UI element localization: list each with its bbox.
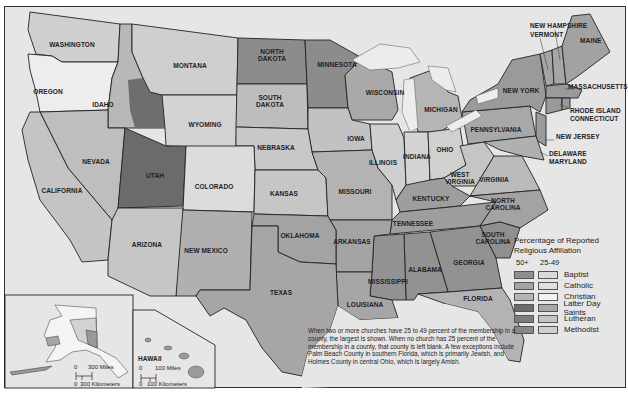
legend-title: Percentage of Reported Religious Affilia… bbox=[514, 236, 624, 255]
state-label-indiana: INDIANA bbox=[387, 153, 447, 160]
state-label-ohio: OHIO bbox=[415, 146, 475, 153]
state-label-maryland: MARYLAND bbox=[549, 158, 587, 165]
hawaii-island-big bbox=[188, 366, 204, 378]
state-label-arkansas: ARKANSAS bbox=[322, 238, 382, 245]
state-label-new-mexico: NEW MEXICO bbox=[184, 247, 228, 254]
state-label-georgia: GEORGIA bbox=[439, 259, 499, 266]
state-connecticut bbox=[546, 98, 562, 114]
state-washington bbox=[28, 12, 120, 62]
state-label-connecticut: CONNECTICUT bbox=[570, 115, 618, 122]
state-colorado bbox=[183, 146, 255, 212]
state-label-new-hampshire: NEW HAMPSHIRE bbox=[530, 22, 587, 29]
hawaii-scale-km: 100 Kilometers bbox=[147, 381, 187, 387]
hawaii-scale-miles: 100 Miles bbox=[155, 365, 181, 371]
legend-col-25: 25-49 bbox=[540, 258, 559, 267]
alaska-scale-zero-km: 0 bbox=[74, 381, 77, 387]
state-label-pennsylvania: PENNSYLVANIA bbox=[466, 126, 526, 133]
state-label-illinois: ILLINOIS bbox=[353, 159, 413, 166]
state-label-wyoming: WYOMING bbox=[175, 121, 235, 128]
legend-label: Methodist bbox=[564, 325, 599, 334]
state-label-florida: FLORIDA bbox=[448, 295, 508, 302]
state-rhode-island bbox=[562, 98, 570, 110]
state-label-utah: UTAH bbox=[125, 172, 185, 179]
legend-item-catholic: Catholic bbox=[514, 280, 624, 291]
state-label-south-carolina: SOUTH CAROLINA bbox=[471, 231, 515, 245]
state-label-vermont: VERMONT bbox=[530, 31, 563, 38]
state-label-arizona: ARIZONA bbox=[117, 241, 177, 248]
state-label-delaware: DELAWARE bbox=[549, 150, 587, 157]
state-label-montana: MONTANA bbox=[160, 62, 220, 69]
state-label-wisconsin: WISCONSIN bbox=[355, 89, 415, 96]
legend-swatch-25-49 bbox=[538, 293, 558, 301]
state-label-south-dakota: SOUTH DAKOTA bbox=[248, 94, 292, 108]
state-label-louisiana: LOUISIANA bbox=[335, 301, 395, 308]
state-label-missouri: MISSOURI bbox=[325, 188, 385, 195]
legend-label: Lutheran bbox=[564, 314, 596, 323]
footnote: When two or more churches have 25 to 49 … bbox=[308, 327, 518, 366]
state-label-new-jersey: NEW JERSEY bbox=[556, 133, 600, 140]
legend-item-latter-day-saints: Latter Day Saints bbox=[514, 302, 624, 313]
legend-swatch-50-plus bbox=[514, 293, 534, 301]
state-label-kentucky: KENTUCKY bbox=[401, 195, 461, 202]
legend-label: Baptist bbox=[564, 270, 588, 279]
state-label-alabama: ALABAMA bbox=[395, 266, 455, 273]
state-new-york bbox=[462, 54, 546, 112]
state-label-mississippi: MISSISSIPPI bbox=[358, 278, 418, 285]
hawaii-scale-zero-km: 0 bbox=[139, 381, 142, 387]
state-montana bbox=[132, 24, 238, 95]
legend-swatch-25-49 bbox=[538, 271, 558, 279]
state-label-idaho: IDAHO bbox=[73, 101, 133, 108]
state-label-oklahoma: OKLAHOMA bbox=[270, 232, 330, 239]
hawaii-island-maui bbox=[179, 353, 189, 359]
hawaii-scale-zero-miles: 0 bbox=[139, 365, 142, 371]
legend-swatch-25-49 bbox=[538, 315, 558, 323]
state-label-kansas: KANSAS bbox=[254, 190, 314, 197]
alaska-scale-zero-miles: 0 bbox=[74, 364, 77, 370]
legend-swatch-50-plus bbox=[514, 282, 534, 290]
state-label-minnesota: MINNESOTA bbox=[307, 61, 367, 68]
state-label-iowa: IOWA bbox=[326, 135, 386, 142]
state-label-north-carolina: NORTH CAROLINA bbox=[481, 197, 525, 211]
hawaii-island-kauai bbox=[145, 338, 151, 342]
state-arizona bbox=[108, 208, 183, 296]
state-label-nebraska: NEBRASKA bbox=[246, 144, 306, 151]
state-label-california: CALIFORNIA bbox=[32, 187, 92, 194]
legend-rows: BaptistCatholicChristianLatter Day Saint… bbox=[514, 269, 624, 335]
legend-item-baptist: Baptist bbox=[514, 269, 624, 280]
legend-item-methodist: Methodist bbox=[514, 324, 624, 335]
legend-swatch-50-plus bbox=[514, 271, 534, 279]
state-label-colorado: COLORADO bbox=[184, 183, 244, 190]
state-label-maine: MAINE bbox=[580, 37, 601, 44]
state-label-washington: WASHINGTON bbox=[42, 41, 102, 48]
state-label-rhode-island: RHODE ISLAND bbox=[570, 107, 621, 114]
hawaii-island-oahu bbox=[164, 346, 172, 350]
legend-swatch-25-49 bbox=[538, 282, 558, 290]
state-label-nevada: NEVADA bbox=[66, 158, 126, 165]
legend-col-50: 50+ bbox=[514, 258, 538, 267]
state-label-massachusetts: MASSACHUSETTS bbox=[568, 83, 628, 90]
legend-swatch-25-49 bbox=[538, 326, 558, 334]
legend-label: Catholic bbox=[564, 281, 593, 290]
state-label-new-york: NEW YORK bbox=[491, 87, 551, 94]
state-label-virginia: VIRGINIA bbox=[464, 176, 524, 183]
state-label-michigan: MICHIGAN bbox=[411, 106, 471, 113]
legend-header: 50+ 25-49 bbox=[514, 258, 624, 267]
legend-swatch-25-49 bbox=[538, 304, 558, 312]
alaska-scale-miles: 300 Miles bbox=[88, 364, 114, 370]
hawaii-inset bbox=[133, 310, 215, 388]
legend: Percentage of Reported Religious Affilia… bbox=[514, 236, 624, 335]
alaska-scale-km: 300 Kilometers bbox=[80, 381, 120, 387]
legend-swatch-50-plus bbox=[514, 304, 534, 312]
state-label-tennessee: TENNESSEE bbox=[383, 220, 443, 227]
state-label-oregon: OREGON bbox=[18, 88, 78, 95]
hawaii-label: HAWAII bbox=[138, 355, 162, 362]
state-label-north-dakota: NORTH DAKOTA bbox=[250, 48, 294, 62]
legend-swatch-50-plus bbox=[514, 315, 534, 323]
state-label-texas: TEXAS bbox=[251, 289, 311, 296]
